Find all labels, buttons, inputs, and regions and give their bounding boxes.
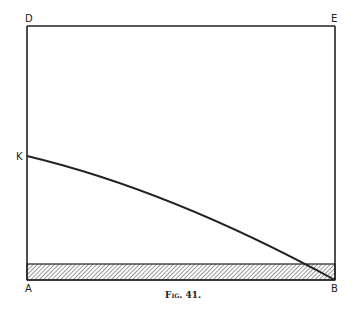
label-K: K — [16, 151, 23, 162]
label-E: E — [331, 13, 337, 24]
curve-KB — [27, 156, 335, 280]
figure-caption: Fig. 41. — [165, 290, 201, 300]
hatched-band — [27, 264, 335, 280]
label-B: B — [331, 283, 338, 294]
label-A: A — [25, 283, 32, 294]
label-D: D — [25, 13, 33, 24]
figure-diagram: D E K A B Fig. 41. — [0, 0, 355, 310]
